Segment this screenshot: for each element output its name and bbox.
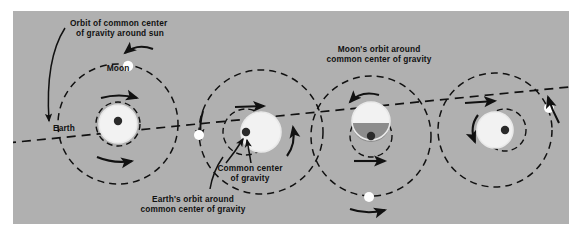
moon-direction-arrow-4: [465, 101, 495, 103]
diagram-svg: [13, 11, 569, 224]
earth-body-4: [473, 112, 521, 160]
moon-direction-arrow-1: [101, 96, 137, 99]
label-sun-orbit: Orbit of common centerof gravity around …: [70, 18, 167, 38]
barycenter-dot-1: [114, 117, 122, 125]
label-moon-orbit-line2: common center of gravity: [326, 54, 431, 64]
moon-pointer-arrow: [125, 47, 153, 53]
label-earth-orbit-line1: Earth's orbit around: [152, 194, 234, 204]
label-ccg-line2: of gravity: [231, 173, 270, 183]
barycenter-dot-4: [501, 126, 509, 134]
phase-3-system: [311, 76, 431, 212]
earth-body-2: [235, 112, 289, 165]
common-center-leader-1: [226, 139, 243, 163]
label-moon-orbit-line1: Moon's orbit around: [338, 44, 421, 54]
moon-direction-arrow-3: [350, 94, 379, 102]
barycenter-dot-2: [242, 128, 250, 136]
label-earth-orbit: Earth's orbit aroundcommon center of gra…: [113, 194, 273, 214]
label-common-center-of-gravity: Common centerof gravity: [198, 163, 302, 183]
label-moon: Moon: [98, 63, 138, 73]
earth-body-1: [93, 97, 145, 156]
sun-orbit-leader-line: [48, 28, 65, 121]
moon-body-3: [364, 192, 374, 202]
moon-body-2: [194, 130, 204, 140]
diagram-panel: Orbit of common centerof gravity around …: [13, 11, 569, 224]
figure-root: Orbit of common centerof gravity around …: [0, 0, 582, 239]
phase-4-system: [438, 73, 559, 187]
label-earth-text: Earth: [53, 123, 75, 133]
earth-direction-arrow-1: [97, 157, 132, 162]
barycenter-dot-3: [367, 132, 375, 140]
earth-direction-arrow-2: [287, 127, 294, 156]
label-ccg-line1: Common center: [217, 163, 282, 173]
moon-direction-arrow-2: [235, 106, 264, 107]
moon-travel-arrow-3: [350, 209, 385, 212]
label-sun-orbit-line1: Orbit of common center: [70, 18, 167, 28]
label-moon-text: Moon: [107, 63, 130, 73]
label-earth: Earth: [43, 123, 85, 133]
label-moon-orbit: Moon's orbit aroundcommon center of grav…: [297, 44, 461, 64]
label-earth-orbit-line2: common center of gravity: [140, 204, 245, 214]
label-sun-orbit-line2: of gravity around sun: [76, 28, 164, 38]
